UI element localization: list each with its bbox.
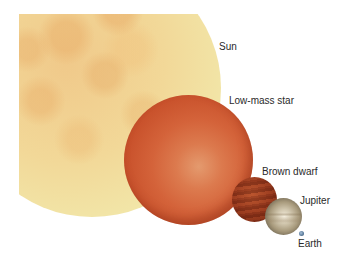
- brown-dwarf-label: Brown dwarf: [262, 166, 318, 178]
- earth-sphere: [299, 231, 304, 236]
- low-mass-star-label: Low-mass star: [229, 95, 294, 107]
- jupiter-label: Jupiter: [300, 195, 330, 207]
- earth-label: Earth: [298, 238, 322, 250]
- size-comparison-diagram: Sun Low-mass star Brown dwarf Jupiter Ea…: [0, 0, 346, 262]
- jupiter-sphere: [265, 198, 302, 235]
- sun-label: Sun: [219, 41, 237, 53]
